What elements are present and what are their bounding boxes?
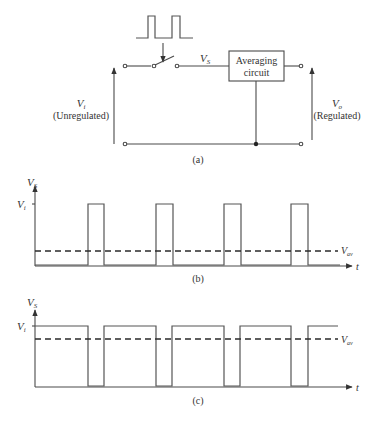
y-axis-label-b: VS [27,176,38,190]
switch-blade [155,56,174,65]
input-terminal-bottom [123,142,127,146]
vs-label: VS [200,52,211,66]
switched-voltage-trace-b [35,204,340,265]
t-axis-label-b: t [356,261,359,272]
vi-level-label-b: Vi [17,198,26,212]
switch-contact [175,64,179,68]
input-terminal-top [123,64,127,68]
vo-label: Vo [332,97,343,111]
block-label-line1: Averaging [236,55,277,66]
vi-description: (Unregulated) [53,110,109,122]
waveform-c: VS Vi Vav t (c) [17,296,359,407]
y-axis-label-c: VS [27,296,38,310]
circuit-schematic: Averaging circuit VS Vi (Unregulated) Vo… [53,16,361,166]
switching-regulator-diagram: Averaging circuit VS Vi (Unregulated) Vo… [0,0,378,433]
control-pulse-icon [136,16,193,38]
vav-label-c: Vav [341,334,353,346]
caption-b: (b) [192,273,204,285]
ground-junction-dot [254,142,258,146]
vi-level-label-c: Vi [17,320,26,334]
vo-description: (Regulated) [313,110,360,122]
block-label-line2: circuit [244,67,270,78]
waveform-b: VS Vi Vav t (b) [17,176,359,285]
caption-a: (a) [192,154,203,166]
t-axis-label-c: t [356,382,359,393]
output-terminal-top [299,64,303,68]
caption-c: (c) [192,395,203,407]
vav-label-b: Vav [341,245,353,257]
switched-voltage-trace-c [35,326,338,386]
vi-label: Vi [77,97,86,111]
output-terminal-bottom [299,142,303,146]
